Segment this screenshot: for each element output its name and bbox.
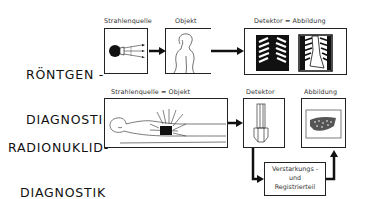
chest-xray-detector-icon	[256, 35, 289, 71]
scintigram-image-icon	[306, 110, 341, 138]
arrow-object-to-detector-icon	[211, 47, 244, 55]
radiating-organ-icon	[150, 109, 186, 136]
xray-source-icon	[109, 44, 145, 58]
human-profile-icon	[174, 34, 194, 73]
arrow-detector-to-amplifier-icon	[253, 148, 264, 183]
arrow-source-to-object-icon	[149, 47, 166, 55]
scintillation-detector-icon	[254, 104, 268, 142]
arrow-amplifier-to-image-icon	[326, 150, 338, 179]
arrow-patient-to-detector-icon	[228, 119, 243, 127]
chest-xray-image-icon	[299, 35, 332, 71]
diagram-drawings	[0, 0, 365, 199]
